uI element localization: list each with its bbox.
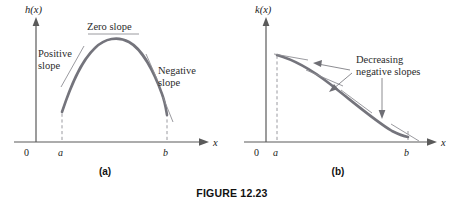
panel-b-leader-middle <box>329 73 352 92</box>
panel-b-tangent-3 <box>341 90 372 113</box>
panel-a-y-axis <box>33 17 40 142</box>
panel-a-annotation-positive-slope: Positive slope <box>38 48 72 71</box>
panel-b-tick-a: a <box>273 147 278 158</box>
panel-b-x-axis-label: x <box>440 137 446 148</box>
panel-a-negative-slope-line1: Negative <box>158 65 196 76</box>
panel-a-zero-slope-line1: Zero slope <box>87 21 132 32</box>
panel-a-label: (a) <box>99 166 111 177</box>
panel-a-annotation-negative-slope: Negative slope <box>158 65 196 88</box>
panel-a-y-axis-label: h(x) <box>25 4 42 16</box>
figure-container: h(x) x 0 a b Positive slope <box>0 0 464 210</box>
panel-a-positive-slope-line1: Positive <box>38 48 72 59</box>
panel-a-annotation-zero-slope: Zero slope <box>87 21 132 32</box>
panel-a-negative-slope-line2: slope <box>158 77 181 88</box>
panel-a-x-axis-label: x <box>212 137 218 148</box>
panel-b-decreasing-line2: negative slopes <box>356 66 420 77</box>
panel-b-decreasing-line1: Decreasing <box>356 54 404 65</box>
figure-graphics: h(x) x 0 a b Positive slope <box>0 0 464 210</box>
panel-a-origin-label: 0 <box>24 147 29 158</box>
panel-a-x-axis <box>14 138 209 145</box>
panel-b-origin-label: 0 <box>254 147 259 158</box>
panel-b-y-axis <box>263 17 270 142</box>
panel-b-tangent-2 <box>306 70 343 86</box>
panel-b-annotation-decreasing-negative-slopes: Decreasing negative slopes <box>356 54 420 77</box>
panel-b-leader-lower <box>379 78 386 119</box>
panel-a-curve <box>62 39 167 115</box>
panel-a-tangent-negative-lower <box>163 97 173 122</box>
figure-caption: FIGURE 12.23 <box>196 187 267 199</box>
panel-b-tick-b: b <box>404 147 409 158</box>
panel-b-y-axis-label: k(x) <box>255 4 272 16</box>
panel-a-group: h(x) x 0 a b Positive slope <box>14 4 218 177</box>
panel-a-tangent-negative-upper <box>146 54 157 79</box>
panel-b-label: (b) <box>332 166 345 177</box>
panel-a-positive-slope-line2: slope <box>38 60 61 71</box>
panel-b-group: k(x) x 0 a b <box>244 4 446 177</box>
panel-b-leader-upper <box>313 60 350 70</box>
panel-a-tick-a: a <box>58 147 63 158</box>
panel-a-tick-b: b <box>163 147 168 158</box>
